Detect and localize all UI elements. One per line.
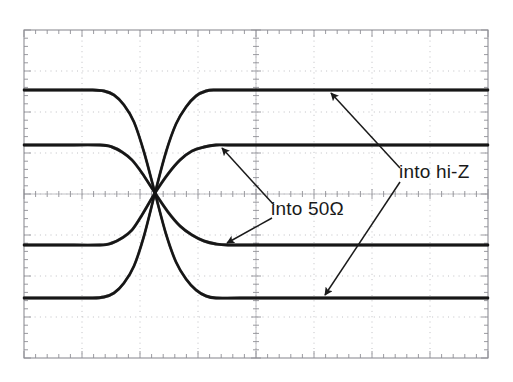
- annotation-label-into-50ohm: into 50Ω: [271, 199, 344, 218]
- oscilloscope-display: [0, 0, 513, 382]
- annotation-label-into-hi-z: into hi-Z: [399, 162, 469, 181]
- canvas-background: [0, 0, 513, 382]
- oscilloscope-screenshot-root: into 50Ω into hi-Z: [0, 0, 513, 382]
